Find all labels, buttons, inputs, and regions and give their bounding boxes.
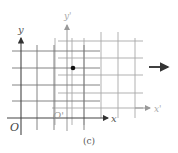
origin-prime-label: O' [53,110,64,121]
moving-frame-grid [52,32,143,125]
point-marker [71,66,76,71]
y-prime-axis-label: y' [63,11,72,21]
origin-label: O [10,121,19,134]
y-axis-label: y [17,24,24,35]
figure-caption: (c) [83,136,95,146]
reference-frames-diagram: y x O y' x' O' (c) [0,0,178,153]
x-prime-axis-label: x' [154,104,162,114]
x-axis-label: x [111,113,117,124]
